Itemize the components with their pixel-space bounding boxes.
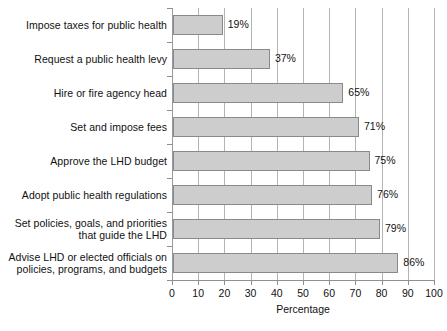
category-label-line: Adopt public health regulations — [0, 189, 167, 201]
x-axis-tick — [355, 280, 356, 285]
x-axis-tick — [224, 280, 225, 285]
category-label-line: Advise LHD or elected officials on — [0, 251, 167, 263]
bar — [173, 83, 343, 103]
category-label: Impose taxes for public health — [0, 19, 170, 31]
category-label-line: Approve the LHD budget — [0, 155, 167, 167]
category-label-line: that guide the LHD — [0, 229, 167, 241]
category-axis-labels: Impose taxes for public healthRequest a … — [0, 8, 170, 280]
category-label-line: Impose taxes for public health — [0, 19, 167, 31]
category-label: Approve the LHD budget — [0, 155, 170, 167]
y-axis-tick — [167, 212, 172, 213]
bar — [173, 185, 372, 205]
x-axis-tick-label: 100 — [419, 287, 447, 299]
bar-value-label: 79% — [385, 222, 406, 234]
category-label: Set policies, goals, and prioritiesthat … — [0, 217, 170, 242]
gridline — [303, 8, 304, 280]
bar — [173, 117, 359, 137]
gridline — [408, 8, 409, 280]
bar-value-label: 75% — [375, 154, 396, 166]
bar — [173, 253, 398, 273]
gridline — [329, 8, 330, 280]
bar-value-label: 76% — [377, 188, 398, 200]
x-axis-tick — [251, 280, 252, 285]
gridline — [277, 8, 278, 280]
x-axis-tick — [198, 280, 199, 285]
x-axis-tick — [382, 280, 383, 285]
y-axis-tick — [167, 144, 172, 145]
y-axis-tick — [167, 76, 172, 77]
gridline — [382, 8, 383, 280]
y-axis-tick — [167, 178, 172, 179]
bar-value-label: 71% — [364, 120, 385, 132]
bar-value-label: 19% — [228, 18, 249, 30]
bar — [173, 15, 223, 35]
category-label-line: Set and impose fees — [0, 121, 167, 133]
y-axis-tick — [167, 110, 172, 111]
category-label: Advise LHD or elected officials onpolici… — [0, 251, 170, 276]
category-label-line: policies, programs, and budgets — [0, 263, 167, 275]
bar-value-label: 86% — [403, 256, 424, 268]
category-label: Request a public health levy — [0, 53, 170, 65]
x-axis-tick — [172, 280, 173, 285]
category-label-line: Hire or fire agency head — [0, 87, 167, 99]
category-label-line: Request a public health levy — [0, 53, 167, 65]
y-axis-tick — [167, 8, 172, 9]
plot-area: 19%37%65%71%75%76%79%86% 010203040506070… — [172, 8, 434, 280]
bar-value-label: 65% — [348, 86, 369, 98]
category-label: Hire or fire agency head — [0, 87, 170, 99]
gridline — [355, 8, 356, 280]
x-axis-tick — [277, 280, 278, 285]
y-axis-tick — [167, 42, 172, 43]
bar — [173, 219, 380, 239]
category-label: Set and impose fees — [0, 121, 170, 133]
category-label-line: Set policies, goals, and priorities — [0, 217, 167, 229]
x-axis-tick — [408, 280, 409, 285]
gridline — [434, 8, 435, 280]
x-axis-tick — [303, 280, 304, 285]
x-axis-tick — [329, 280, 330, 285]
bar — [173, 49, 270, 69]
horizontal-bar-chart: Impose taxes for public healthRequest a … — [0, 0, 447, 331]
x-axis-tick — [434, 280, 435, 285]
x-axis-title: Percentage — [172, 303, 434, 315]
bar — [173, 151, 370, 171]
y-axis-tick — [167, 246, 172, 247]
bar-value-label: 37% — [275, 52, 296, 64]
category-label: Adopt public health regulations — [0, 189, 170, 201]
